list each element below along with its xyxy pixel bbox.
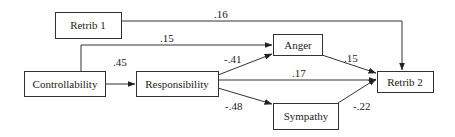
edge-controllability-anger bbox=[81, 45, 272, 71]
coef-retrib1-retrib2: .16 bbox=[214, 8, 228, 20]
coef-responsibility-anger: -.41 bbox=[224, 53, 241, 65]
coef-controllability-responsibility: .45 bbox=[113, 56, 127, 68]
node-retrib1: Retrib 1 bbox=[56, 13, 122, 39]
node-label: Retrib 1 bbox=[70, 19, 106, 31]
node-controllability: Controllability bbox=[25, 72, 106, 97]
node-sympathy: Sympathy bbox=[274, 104, 339, 130]
node-label: Retrib 2 bbox=[387, 76, 423, 88]
coef-anger-retrib2: .15 bbox=[344, 52, 358, 64]
coef-sympathy-retrib2: -.22 bbox=[353, 100, 370, 112]
coef-controllability-anger: .15 bbox=[160, 32, 174, 44]
node-label: Controllability bbox=[33, 78, 98, 90]
node-label: Responsibility bbox=[145, 78, 209, 90]
node-anger: Anger bbox=[274, 35, 323, 56]
path-diagram: Retrib 1 Controllability Responsibility … bbox=[0, 0, 455, 137]
node-label: Sympathy bbox=[284, 110, 329, 122]
node-label: Anger bbox=[284, 39, 312, 51]
node-retrib2: Retrib 2 bbox=[378, 72, 434, 93]
coef-responsibility-sympathy: -.48 bbox=[225, 100, 243, 112]
coef-responsibility-retrib2: .17 bbox=[292, 67, 306, 79]
node-responsibility: Responsibility bbox=[137, 72, 219, 97]
